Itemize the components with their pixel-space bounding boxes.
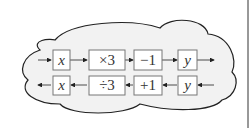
inverse-label-divide: ÷3 [99, 77, 115, 93]
forward-label-multiply: ×3 [99, 52, 115, 68]
forward-label-input: x [57, 52, 65, 68]
forward-label-output: y [182, 52, 191, 68]
inverse-label-output: x [57, 77, 65, 93]
inverse-label-input: y [182, 77, 191, 93]
function-machine-diagram: x ×3 −1 y x ÷3 +1 y [0, 0, 251, 128]
forward-label-subtract: −1 [140, 52, 156, 68]
inverse-label-add: +1 [140, 77, 156, 93]
